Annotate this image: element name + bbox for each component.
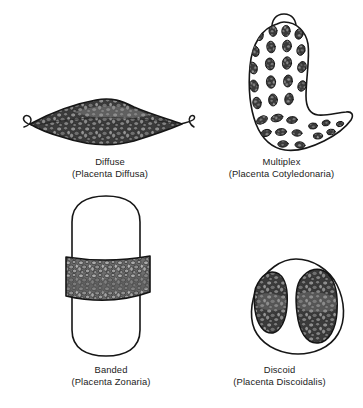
caption-multiplex-latin: (Placenta Cotyledonaria) xyxy=(200,168,363,180)
placenta-types-figure: Diffuse (Placenta Diffusa) Multiplex (Pl… xyxy=(0,0,363,408)
caption-banded: Banded (Placenta Zonaria) xyxy=(0,364,222,387)
caption-diffuse-latin: (Placenta Diffusa) xyxy=(0,168,220,180)
caption-discoid-latin: (Placenta Discoidalis) xyxy=(196,376,363,388)
caption-multiplex-name: Multiplex xyxy=(200,156,363,168)
caption-banded-name: Banded xyxy=(0,364,222,376)
panel-discoid-illustration xyxy=(250,259,344,354)
caption-discoid-name: Discoid xyxy=(196,364,363,376)
panel-diffuse-illustration xyxy=(23,94,194,148)
placenta-types-diagram xyxy=(0,0,363,408)
panel-multiplex-illustration xyxy=(247,14,352,150)
caption-diffuse-name: Diffuse xyxy=(0,156,220,168)
diffuse-right-hook-icon xyxy=(181,116,195,127)
diffuse-villous-surface xyxy=(24,94,190,148)
panel-banded-illustration xyxy=(62,196,156,356)
caption-discoid: Discoid (Placenta Discoidalis) xyxy=(196,364,363,387)
caption-banded-latin: (Placenta Zonaria) xyxy=(0,376,222,388)
caption-multiplex: Multiplex (Placenta Cotyledonaria) xyxy=(200,156,363,179)
caption-diffuse: Diffuse (Placenta Diffusa) xyxy=(0,156,220,179)
